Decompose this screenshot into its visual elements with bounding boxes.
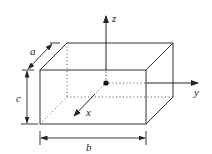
x-axis-label: x: [85, 106, 91, 118]
dimension-c-label: c: [16, 92, 21, 104]
dimension-b: b: [40, 131, 146, 153]
hidden-bottom-left-depth-edge: [40, 97, 67, 124]
z-axis-label: z: [111, 12, 117, 24]
dimension-b-label: b: [86, 141, 92, 153]
box-diagram: z y x a c b: [0, 0, 212, 154]
dimension-a-label: a: [30, 45, 36, 57]
coordinate-axes: z y x: [74, 12, 199, 118]
dimension-c: c: [16, 71, 38, 124]
dimension-a: a: [22, 43, 60, 70]
x-axis-inner: [95, 85, 104, 94]
y-axis-label: y: [193, 86, 199, 98]
